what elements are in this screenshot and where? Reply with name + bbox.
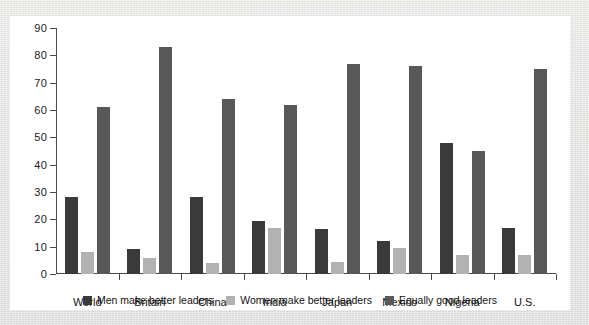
chart-legend: Men make better leadersWomen make better… — [10, 294, 570, 306]
plot-area: 0102030405060708090 WorldBritainChinaInd… — [56, 28, 556, 274]
y-axis-tick-label: 20 — [34, 213, 47, 225]
bar-equal — [534, 69, 547, 274]
legend-item: Equally good leaders — [385, 294, 497, 306]
bar-women — [456, 255, 469, 274]
y-axis-tick-label: 30 — [34, 186, 47, 198]
bar-men — [315, 229, 328, 274]
bar-men — [502, 228, 515, 274]
x-axis-tick — [431, 274, 432, 280]
y-axis-tick-label: 40 — [34, 159, 47, 171]
bar-equal — [222, 99, 235, 274]
x-axis-tick — [556, 274, 557, 280]
y-axis-tick-label: 50 — [34, 131, 47, 143]
y-axis-tick-label: 0 — [41, 268, 47, 280]
bar-men — [65, 197, 78, 274]
legend-label: Equally good leaders — [399, 294, 497, 306]
bar-group-us — [494, 28, 557, 274]
grouped-bar-chart: 0102030405060708090 WorldBritainChinaInd… — [10, 16, 570, 310]
y-axis-tick — [50, 274, 56, 275]
bar-group-japan — [306, 28, 369, 274]
legend-swatch-icon — [83, 296, 92, 305]
bar-group-china — [181, 28, 244, 274]
bar-women — [393, 248, 406, 274]
bar-women — [268, 228, 281, 274]
y-axis-tick-label: 60 — [34, 104, 47, 116]
bar-equal — [97, 107, 110, 274]
bar-men — [252, 221, 265, 274]
bar-men — [190, 197, 203, 274]
x-axis-tick — [306, 274, 307, 280]
bar-equal — [284, 105, 297, 274]
legend-item: Women make better leaders — [226, 294, 372, 306]
legend-swatch-icon — [385, 296, 394, 305]
y-axis-tick-label: 90 — [34, 22, 47, 34]
x-axis-tick — [244, 274, 245, 280]
bar-group-world — [56, 28, 119, 274]
bar-equal — [409, 66, 422, 274]
y-axis-tick-label: 70 — [34, 77, 47, 89]
y-axis-tick-label: 80 — [34, 49, 47, 61]
legend-swatch-icon — [226, 296, 235, 305]
bar-groups — [56, 28, 556, 274]
legend-label: Women make better leaders — [240, 294, 372, 306]
bar-women — [331, 262, 344, 274]
bar-equal — [159, 47, 172, 274]
x-axis-tick — [119, 274, 120, 280]
bar-women — [143, 258, 156, 274]
bar-women — [518, 255, 531, 274]
bar-equal — [472, 151, 485, 274]
legend-item: Men make better leaders — [83, 294, 213, 306]
x-axis-tick — [369, 274, 370, 280]
bar-men — [440, 143, 453, 274]
bar-group-india — [244, 28, 307, 274]
bar-men — [377, 241, 390, 274]
bar-group-britain — [119, 28, 182, 274]
bar-women — [81, 252, 94, 274]
y-axis-tick-label: 10 — [34, 241, 47, 253]
bar-men — [127, 249, 140, 274]
x-axis-tick — [181, 274, 182, 280]
bar-equal — [347, 64, 360, 274]
bar-women — [206, 263, 219, 274]
bar-group-nigeria — [431, 28, 494, 274]
x-axis-tick — [494, 274, 495, 280]
bar-group-mexico — [369, 28, 432, 274]
legend-label: Men make better leaders — [97, 294, 213, 306]
